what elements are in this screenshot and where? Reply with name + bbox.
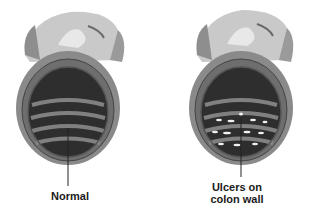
- ulcerated-colon-panel: Ulcers on colon wall: [157, 0, 314, 220]
- ulcers-label-line1: Ulcers on: [187, 181, 287, 193]
- normal-colon-panel: Normal: [0, 0, 157, 220]
- ulcers-label-line2: colon wall: [187, 193, 287, 205]
- ulcers-label: Ulcers on colon wall: [187, 181, 287, 205]
- normal-label: Normal: [30, 190, 110, 202]
- normal-colon-illustration: [0, 0, 157, 220]
